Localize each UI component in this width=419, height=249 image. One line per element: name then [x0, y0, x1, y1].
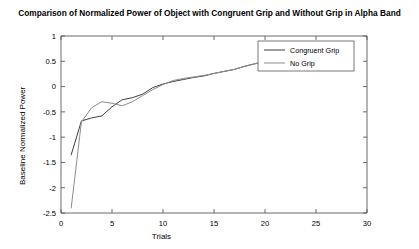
y-tick-label: -2 — [49, 184, 56, 193]
data-series-group — [71, 59, 275, 208]
x-tick-label: 0 — [59, 219, 63, 228]
y-tick-label: 0 — [52, 82, 56, 91]
chart-figure: Comparison of Normalized Power of Object… — [0, 0, 419, 249]
x-tick-label: 30 — [363, 219, 371, 228]
legend-label-0: Congruent Grip — [290, 46, 339, 55]
y-tick-label: 0.5 — [45, 57, 56, 66]
y-tick-label: 1 — [52, 32, 56, 41]
chart-legend: Congruent GripNo Grip — [258, 41, 354, 71]
x-tick-label: 5 — [110, 219, 114, 228]
y-tick-label: -1.5 — [43, 158, 56, 167]
x-tick-label: 25 — [312, 219, 320, 228]
plot-area: 051015202530 10.50-0.5-1-1.5-2-2.5 Congr… — [0, 0, 419, 249]
y-tick-label: -1 — [49, 133, 56, 142]
y-tick-label: -2.5 — [43, 209, 56, 218]
series-line-0 — [71, 59, 275, 155]
y-tick-label: -0.5 — [43, 108, 56, 117]
x-tick-label: 20 — [261, 219, 269, 228]
x-tick-label: 15 — [210, 219, 218, 228]
x-tick-label: 10 — [159, 219, 167, 228]
legend-label-1: No Grip — [290, 59, 315, 68]
